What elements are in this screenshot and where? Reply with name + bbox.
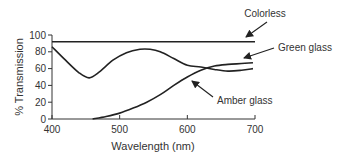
annotation-amber: Amber glass bbox=[192, 81, 273, 106]
annotation-colorless: Colorless bbox=[244, 8, 286, 37]
x-tick-label: 500 bbox=[111, 124, 128, 135]
arrow-icon bbox=[244, 48, 274, 58]
arrow-icon bbox=[192, 81, 213, 97]
y-tick-label: 40 bbox=[35, 80, 47, 91]
y-axis: 020406080100 bbox=[29, 30, 52, 125]
annotation-colorless-label: Colorless bbox=[244, 8, 286, 19]
series-green-glass bbox=[52, 47, 253, 78]
y-tick-label: 100 bbox=[29, 30, 46, 41]
annotation-amber-label: Amber glass bbox=[217, 95, 273, 106]
y-tick-label: 0 bbox=[40, 114, 46, 125]
series-group bbox=[52, 42, 255, 119]
x-axis-label: Wavelength (nm) bbox=[111, 140, 194, 152]
y-axis-label: % Transmission bbox=[13, 38, 25, 116]
y-tick-label: 80 bbox=[35, 46, 47, 57]
y-tick-label: 60 bbox=[35, 63, 47, 74]
x-tick-label: 400 bbox=[44, 124, 61, 135]
arrow-icon bbox=[246, 22, 267, 37]
y-tick-label: 20 bbox=[35, 97, 47, 108]
x-axis: 400500600700 bbox=[44, 115, 264, 135]
transmission-chart: 020406080100 400500600700 % Transmission… bbox=[0, 0, 340, 163]
annotation-green: Green glass bbox=[244, 42, 332, 58]
annotation-green-label: Green glass bbox=[278, 42, 332, 53]
x-tick-label: 600 bbox=[179, 124, 196, 135]
x-tick-label: 700 bbox=[247, 124, 264, 135]
